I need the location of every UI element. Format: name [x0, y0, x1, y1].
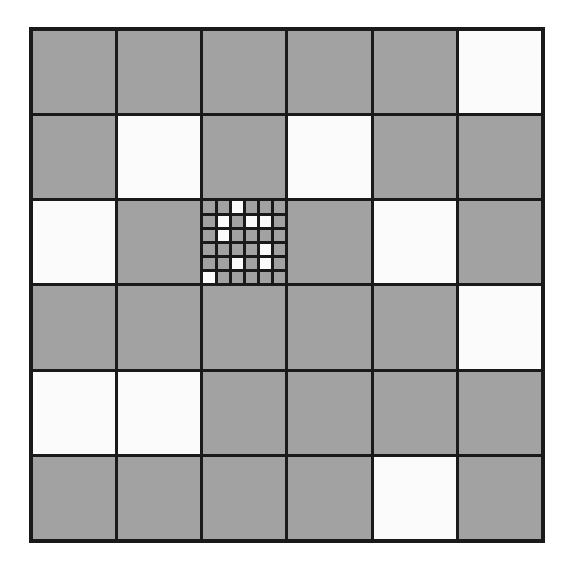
white-cell	[374, 457, 456, 539]
subgrid-cell	[203, 244, 214, 255]
subgrid-cell	[203, 216, 214, 227]
gray-cell	[118, 201, 200, 283]
subgrid-cell	[246, 230, 257, 241]
subgrid-cell	[232, 201, 243, 212]
white-cell	[33, 372, 115, 454]
subgrid-cell	[203, 201, 214, 212]
subgrid-cell	[246, 216, 257, 227]
gray-cell	[374, 31, 456, 113]
gray-cell	[459, 372, 541, 454]
white-cell	[459, 31, 541, 113]
subgrid-cell	[274, 230, 285, 241]
gray-cell	[288, 31, 370, 113]
subgrid-cell	[218, 244, 229, 255]
subgrid-cell	[218, 216, 229, 227]
subgrid-cell	[203, 272, 214, 283]
gray-cell	[203, 116, 285, 198]
subgrid-cell	[274, 272, 285, 283]
canvas	[0, 0, 571, 570]
subgrid-cell	[232, 258, 243, 269]
gray-cell	[203, 286, 285, 368]
gray-cell	[33, 457, 115, 539]
subgrid-cell	[260, 272, 271, 283]
gray-cell	[374, 286, 456, 368]
white-cell	[33, 201, 115, 283]
gray-cell	[118, 31, 200, 113]
main-grid	[29, 27, 545, 543]
subgrid-cell	[260, 201, 271, 212]
subgrid-cell	[246, 201, 257, 212]
subgrid	[203, 201, 285, 283]
subgrid-cell	[246, 244, 257, 255]
gray-cell	[203, 372, 285, 454]
white-cell	[288, 116, 370, 198]
gray-cell	[33, 31, 115, 113]
gray-cell	[374, 372, 456, 454]
gray-cell	[33, 116, 115, 198]
gray-cell	[288, 372, 370, 454]
subgrid-cell	[246, 272, 257, 283]
white-cell	[459, 286, 541, 368]
subgrid-cell	[218, 201, 229, 212]
gray-cell	[288, 286, 370, 368]
subgrid-cell	[274, 201, 285, 212]
subgrid-cell	[232, 230, 243, 241]
subgrid-cell	[260, 244, 271, 255]
subdivided-cell	[203, 201, 285, 283]
subgrid-cell	[260, 258, 271, 269]
subgrid-cell	[274, 258, 285, 269]
subgrid-cell	[232, 272, 243, 283]
subgrid-cell	[203, 230, 214, 241]
gray-cell	[459, 457, 541, 539]
gray-cell	[288, 457, 370, 539]
white-cell	[118, 372, 200, 454]
subgrid-cell	[218, 230, 229, 241]
subgrid-cell	[260, 230, 271, 241]
gray-cell	[203, 457, 285, 539]
subgrid-cell	[274, 244, 285, 255]
subgrid-cell	[218, 258, 229, 269]
gray-cell	[118, 286, 200, 368]
subgrid-cell	[203, 258, 214, 269]
gray-cell	[374, 116, 456, 198]
white-cell	[118, 116, 200, 198]
gray-cell	[203, 31, 285, 113]
subgrid-cell	[260, 216, 271, 227]
gray-cell	[459, 201, 541, 283]
subgrid-cell	[232, 216, 243, 227]
gray-cell	[459, 116, 541, 198]
gray-cell	[33, 286, 115, 368]
subgrid-cell	[218, 272, 229, 283]
subgrid-cell	[274, 216, 285, 227]
white-cell	[374, 201, 456, 283]
subgrid-cell	[232, 244, 243, 255]
gray-cell	[118, 457, 200, 539]
gray-cell	[288, 201, 370, 283]
subgrid-cell	[246, 258, 257, 269]
